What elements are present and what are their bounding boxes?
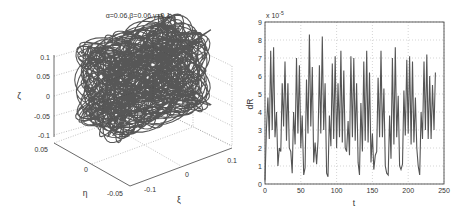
svg-text:1: 1 xyxy=(258,163,262,170)
zeta-axis-ticks: 0.1 0.05 0 -0.05 -0.1 xyxy=(34,54,50,139)
svg-text:150: 150 xyxy=(367,187,379,194)
svg-text:0: 0 xyxy=(185,171,189,178)
x-axis-label: t xyxy=(353,198,356,208)
svg-text:0: 0 xyxy=(84,166,88,173)
dr-time-series-plot: 0123456789 050100150200250 x 10-5 dR t xyxy=(231,0,462,213)
y-scale-exponent: x 10-5 xyxy=(266,10,284,19)
svg-text:4: 4 xyxy=(258,109,262,116)
eta-axis-label: η xyxy=(83,188,88,198)
svg-text:-0.1: -0.1 xyxy=(38,132,50,139)
svg-text:-0.1: -0.1 xyxy=(144,186,156,193)
svg-text:5: 5 xyxy=(258,91,262,98)
svg-text:0: 0 xyxy=(263,187,267,194)
dr-time-series-svg: 0123456789 050100150200250 x 10-5 dR t xyxy=(231,0,462,213)
svg-text:3: 3 xyxy=(258,127,262,134)
xi-axis-ticks: -0.1 0 0.1 xyxy=(144,157,237,193)
svg-text:6: 6 xyxy=(258,73,262,80)
svg-text:2: 2 xyxy=(258,145,262,152)
x-axis-ticks: 050100150200250 xyxy=(263,187,450,194)
svg-text:0.05: 0.05 xyxy=(34,146,48,153)
trajectory-3d-plot: α=0.06,β=0.06,γ=0.1 xyxy=(0,0,240,213)
svg-text:9: 9 xyxy=(258,19,262,26)
svg-text:200: 200 xyxy=(402,187,414,194)
svg-text:0: 0 xyxy=(258,181,262,188)
svg-text:-0.05: -0.05 xyxy=(34,113,50,120)
eta-axis-ticks: 0.05 0 -0.05 xyxy=(34,146,123,197)
svg-text:0.05: 0.05 xyxy=(36,73,50,80)
svg-text:0: 0 xyxy=(46,93,50,100)
y-axis-ticks: 0123456789 xyxy=(258,19,262,188)
svg-text:8: 8 xyxy=(258,37,262,44)
xi-axis-label: ξ xyxy=(177,195,181,205)
svg-text:50: 50 xyxy=(297,187,305,194)
svg-text:250: 250 xyxy=(438,187,450,194)
svg-text:-0.05: -0.05 xyxy=(107,190,123,197)
y-axis-label: dR xyxy=(245,99,255,110)
svg-text:7: 7 xyxy=(258,55,262,62)
svg-text:100: 100 xyxy=(331,187,343,194)
trajectory-3d-svg: α=0.06,β=0.06,γ=0.1 xyxy=(0,0,240,213)
dr-line-series xyxy=(265,35,435,181)
zeta-axis-label: ζ xyxy=(17,91,21,101)
svg-text:0.1: 0.1 xyxy=(40,54,50,61)
